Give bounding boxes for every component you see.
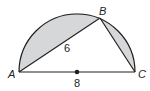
semicircle-diagram: A B C 6 8 [0,0,150,91]
length-ac-label: 8 [74,77,80,89]
chord-bc [100,18,135,72]
label-a: A [7,68,15,80]
center-point [75,70,80,75]
label-b: B [99,5,106,17]
label-c: C [138,68,146,80]
length-ab-label: 6 [64,42,70,54]
